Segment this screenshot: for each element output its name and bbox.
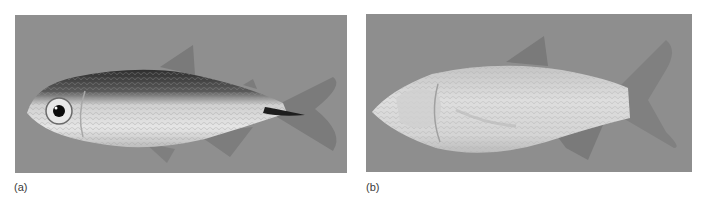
panel-label-a: (a) [14, 182, 27, 193]
panel-label-b: (b) [366, 182, 379, 193]
fish-photo-b [366, 14, 692, 172]
surface-fish-image [15, 15, 347, 173]
fish-photo-a [15, 15, 347, 173]
cave-fish-image [366, 14, 692, 172]
